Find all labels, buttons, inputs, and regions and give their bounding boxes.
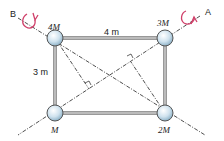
axis-A-label: A xyxy=(205,8,211,17)
dimension-width-label: 4 m xyxy=(104,28,119,37)
mass-label-M: M xyxy=(51,126,59,135)
spheres xyxy=(47,30,173,121)
axis-B-label: B xyxy=(10,10,16,19)
mass-label-4M: 4M xyxy=(48,23,60,32)
dimension-height-label: 3 m xyxy=(33,68,48,77)
sphere-2M xyxy=(157,105,173,121)
sphere-3M xyxy=(157,30,173,46)
frame xyxy=(55,38,165,113)
rotation-arrow-B-icon xyxy=(23,13,38,28)
right-angle-marks xyxy=(85,54,133,85)
perp-from-4M xyxy=(57,41,89,89)
perp-from-2M xyxy=(131,62,163,110)
mass-label-2M: 2M xyxy=(158,126,170,135)
rotation-arrow-A-icon xyxy=(182,11,197,24)
sphere-4M xyxy=(47,30,63,46)
mass-label-3M: 3M xyxy=(157,19,169,28)
sphere-M xyxy=(47,105,63,121)
